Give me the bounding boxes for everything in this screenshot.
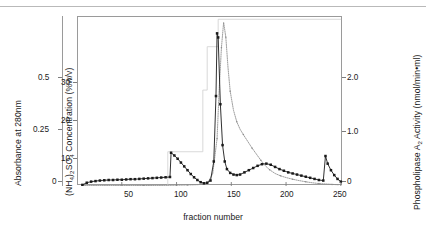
data-point-marker xyxy=(318,183,320,185)
x-axis-title: fraction number xyxy=(0,212,426,222)
data-point-marker xyxy=(170,152,173,155)
data-point-marker xyxy=(134,178,137,181)
ammonium-tick-20: 20 xyxy=(61,116,70,125)
data-point-marker xyxy=(313,178,316,181)
data-point-marker xyxy=(173,154,176,157)
data-point-marker xyxy=(269,169,271,171)
data-point-marker xyxy=(206,181,209,184)
data-point-marker xyxy=(260,160,262,162)
data-point-marker xyxy=(292,178,294,180)
data-point-marker xyxy=(129,178,132,181)
data-point-marker xyxy=(223,160,226,163)
data-point-marker xyxy=(229,91,231,93)
data-point-marker xyxy=(226,168,229,171)
ammonium-sub-4: 4 xyxy=(68,177,75,181)
data-point-marker xyxy=(86,181,89,184)
data-point-marker xyxy=(229,172,232,175)
data-point-marker xyxy=(183,165,186,168)
data-point-marker xyxy=(186,169,189,172)
x-tick-200: 200 xyxy=(280,190,294,199)
data-point-marker xyxy=(269,163,272,166)
data-point-marker xyxy=(203,182,206,185)
pla2-tick-2.0: 2.0 xyxy=(347,73,358,82)
data-point-marker xyxy=(236,121,238,123)
data-point-marker xyxy=(216,32,219,35)
plot-area xyxy=(77,16,342,185)
data-point-marker xyxy=(318,179,321,182)
data-point-marker xyxy=(193,176,196,179)
data-point-marker xyxy=(274,166,277,169)
data-point-marker xyxy=(160,176,163,179)
data-point-marker xyxy=(322,179,325,182)
data-point-marker xyxy=(309,177,312,180)
data-point-marker xyxy=(99,179,102,182)
x-tick-50: 50 xyxy=(124,190,133,199)
absorbance-series xyxy=(81,32,342,186)
data-point-marker xyxy=(196,179,199,182)
data-point-marker xyxy=(225,37,227,39)
data-point-marker xyxy=(180,161,183,164)
data-point-marker xyxy=(326,162,329,165)
data-point-marker xyxy=(283,169,286,172)
top-rule xyxy=(0,6,426,7)
data-point-marker xyxy=(305,175,308,178)
absorbance-axis-title: Absorbance at 280nm xyxy=(13,100,23,186)
data-point-marker xyxy=(164,176,167,179)
series-path xyxy=(82,33,340,185)
data-point-marker xyxy=(243,171,246,174)
pla2-tick-0: 0 xyxy=(347,177,352,186)
data-point-marker xyxy=(156,177,159,180)
data-point-marker xyxy=(232,173,235,176)
data-point-marker xyxy=(107,179,110,182)
data-point-marker xyxy=(300,174,303,177)
plot-svg xyxy=(78,17,343,186)
ammonium-title-mid: ) xyxy=(64,174,74,177)
data-point-marker xyxy=(243,134,245,136)
data-point-marker xyxy=(209,179,212,182)
data-point-marker xyxy=(251,147,253,149)
data-point-marker xyxy=(248,169,251,172)
data-point-marker xyxy=(81,184,84,186)
data-point-marker xyxy=(190,173,193,176)
data-point-marker xyxy=(217,36,220,39)
data-point-marker xyxy=(221,144,224,147)
data-point-marker xyxy=(291,172,294,175)
data-point-marker xyxy=(256,165,259,168)
ammonium-sulfate-step-series xyxy=(82,19,340,186)
data-point-marker xyxy=(143,185,145,186)
data-point-marker xyxy=(305,181,307,183)
pla2-tick-1.0: 1.0 xyxy=(347,127,358,136)
data-point-marker xyxy=(333,174,336,177)
data-point-marker xyxy=(221,47,223,49)
x-tick-250: 250 xyxy=(333,190,347,199)
data-point-marker xyxy=(287,171,290,174)
data-point-marker xyxy=(213,160,216,163)
data-point-marker xyxy=(219,103,222,106)
pla-title-pre: Phospholipase A xyxy=(412,144,422,210)
absorbance-tick-0.25: 0.25 xyxy=(33,125,49,134)
data-point-marker xyxy=(239,173,242,176)
data-point-marker xyxy=(330,169,333,172)
data-point-marker xyxy=(215,95,218,98)
data-point-marker xyxy=(176,157,179,160)
data-point-marker xyxy=(261,163,264,166)
pla-title-post: Activity (nmol/min•ml) xyxy=(412,54,422,140)
data-point-marker xyxy=(112,179,115,182)
data-point-marker xyxy=(116,178,119,181)
data-point-marker xyxy=(142,177,145,180)
data-point-marker xyxy=(336,178,339,181)
data-point-marker xyxy=(252,167,255,170)
data-point-marker xyxy=(324,155,327,158)
data-point-marker xyxy=(94,180,97,183)
data-point-marker xyxy=(280,175,282,177)
pla-sub-2: 2 xyxy=(416,141,423,145)
pla2-axis-title: Phospholipase A2 Activity (nmol/min•ml) xyxy=(412,54,423,210)
data-point-marker xyxy=(90,180,93,183)
data-point-marker xyxy=(199,181,202,184)
ammonium-title-pre: (NH xyxy=(64,180,74,196)
ammonium-tick-10: 10 xyxy=(61,154,70,163)
ammonium-tick-30: 30 xyxy=(61,78,70,87)
absorbance-tick-0: 0 xyxy=(52,177,57,186)
absorbance-tick-0.5: 0.5 xyxy=(38,73,49,82)
data-point-marker xyxy=(125,178,128,181)
